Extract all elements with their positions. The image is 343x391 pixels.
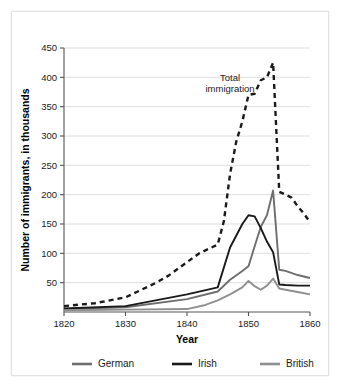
x-axis-ticks: 18201830184018501860 [53, 312, 320, 329]
series-line-irish [64, 215, 310, 308]
legend-item-irish[interactable]: Irish [172, 358, 217, 369]
y-tick-label: 300 [41, 130, 57, 141]
x-tick-label: 1860 [299, 318, 320, 329]
annotation-line: immigration [205, 83, 254, 94]
y-axis-title: Number of immigrants, in thousands [19, 88, 31, 271]
legend-label-german: German [98, 358, 134, 369]
chart-legend: GermanIrishBritish [72, 358, 314, 369]
y-tick-label: 350 [41, 101, 57, 112]
legend-item-british[interactable]: British [260, 358, 314, 369]
legend-label-british: British [286, 358, 314, 369]
y-tick-label: 150 [41, 218, 57, 229]
y-tick-label: 450 [41, 42, 57, 53]
y-axis-ticks: 50100150200250300350400450 [41, 42, 64, 288]
y-tick-label: 200 [41, 189, 57, 200]
series-line-german [64, 191, 310, 310]
chart-card: 50100150200250300350400450 1820183018401… [11, 11, 329, 376]
total-immigration-annotation: Totalimmigration [205, 72, 254, 94]
x-axis-title: Year [176, 333, 198, 345]
y-tick-label: 250 [41, 160, 57, 171]
x-tick-label: 1820 [53, 318, 74, 329]
y-tick-label: 400 [41, 72, 57, 83]
x-tick-label: 1840 [176, 318, 197, 329]
legend-label-irish: Irish [198, 358, 217, 369]
series-line-total-immigration [64, 63, 310, 306]
y-tick-label: 100 [41, 248, 57, 259]
x-tick-label: 1850 [238, 318, 259, 329]
series-layer [64, 63, 310, 311]
chart-svg: 50100150200250300350400450 1820183018401… [12, 12, 330, 377]
gridlines [64, 48, 310, 283]
annotation-line: Total [220, 72, 240, 83]
total-immigration-label: Totalimmigration [205, 72, 254, 94]
y-tick-label: 50 [46, 277, 57, 288]
x-tick-label: 1830 [115, 318, 136, 329]
legend-item-german[interactable]: German [72, 358, 134, 369]
immigration-line-chart: 50100150200250300350400450 1820183018401… [12, 12, 330, 377]
